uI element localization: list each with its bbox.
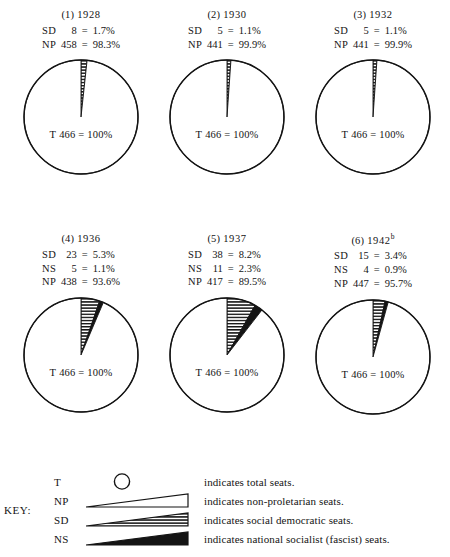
value-row-NS: NS 4 = 0.9% bbox=[334, 263, 412, 277]
panel-index: (3) bbox=[353, 9, 366, 20]
row-equals: = bbox=[226, 38, 236, 52]
panel-year: 1936 bbox=[77, 233, 100, 244]
row-percent: 99.9% bbox=[236, 38, 266, 52]
row-percent: 1.1% bbox=[90, 262, 120, 276]
key-entry-NP: NP indicates non-proletarian seats. bbox=[54, 491, 390, 510]
pie-total-label: T 466 = 100% bbox=[167, 367, 287, 378]
key-swatch-black-icon bbox=[84, 529, 190, 548]
pie-chart-1937: T 466 = 100% bbox=[167, 295, 287, 415]
pie-panel-1937: (5) 1937 SD 38 = 8.2% NS 11 = 2.3% NP 41… bbox=[152, 232, 302, 415]
panel-title: (1) 1928 bbox=[6, 8, 156, 22]
row-percent: 99.9% bbox=[382, 38, 412, 52]
pie-panel-1942: (6) 1942b SD 15 = 3.4% NS 4 = 0.9% NP 44… bbox=[298, 232, 448, 417]
row-abbr: SD bbox=[188, 248, 207, 262]
key-entry-description: indicates national socialist (fascist) s… bbox=[190, 533, 390, 545]
row-percent: 8.2% bbox=[236, 248, 266, 262]
key-entry-abbr: SD bbox=[54, 514, 84, 526]
panel-title: (2) 1930 bbox=[152, 8, 302, 22]
row-seats: 5 bbox=[207, 24, 226, 38]
row-abbr: SD bbox=[334, 24, 353, 38]
value-row-NP: NP 447 = 95.7% bbox=[334, 277, 412, 291]
panel-year: 1937 bbox=[223, 233, 246, 244]
panel-value-table: SD 15 = 3.4% NS 4 = 0.9% NP 447 = 95.7% bbox=[334, 249, 412, 291]
row-percent: 89.5% bbox=[236, 275, 266, 289]
key-entry-abbr: T bbox=[54, 476, 84, 488]
row-seats: 38 bbox=[207, 248, 226, 262]
row-equals: = bbox=[226, 24, 236, 38]
row-seats: 447 bbox=[353, 277, 372, 291]
pie-chart-1928: T 466 = 100% bbox=[21, 57, 141, 177]
pie-chart-1932: T 466 = 100% bbox=[313, 57, 433, 177]
chart-key: KEY: T indicates total seats. NP indicat… bbox=[0, 470, 450, 557]
row-abbr: NS bbox=[334, 263, 353, 277]
pie-chart-1936: T 466 = 100% bbox=[21, 295, 141, 415]
pie-panel-1930: (2) 1930 SD 5 = 1.1% NP 441 = 99.9% T 46… bbox=[152, 8, 302, 177]
row-abbr: SD bbox=[42, 248, 61, 262]
row-equals: = bbox=[80, 248, 90, 262]
row-seats: 438 bbox=[61, 275, 80, 289]
value-row-SD: SD 15 = 3.4% bbox=[334, 249, 412, 263]
row-seats: 441 bbox=[207, 38, 226, 52]
row-abbr: SD bbox=[42, 24, 61, 38]
pie-total-label: T 466 = 100% bbox=[167, 129, 287, 140]
row-equals: = bbox=[80, 262, 90, 276]
pie-panel-1932: (3) 1932 SD 5 = 1.1% NP 441 = 99.9% T 46… bbox=[298, 8, 448, 177]
row-seats: 5 bbox=[353, 24, 372, 38]
panel-value-table: SD 8 = 1.7% NP 458 = 98.3% bbox=[42, 24, 120, 52]
row-abbr: NP bbox=[42, 38, 61, 52]
row-percent: 95.7% bbox=[382, 277, 412, 291]
panel-footnote-marker: b bbox=[391, 232, 395, 241]
row-abbr: SD bbox=[188, 24, 207, 38]
key-entry-T: T indicates total seats. bbox=[54, 472, 390, 491]
row-equals: = bbox=[372, 24, 382, 38]
panel-year: 1932 bbox=[369, 9, 392, 20]
row-equals: = bbox=[372, 277, 382, 291]
row-seats: 15 bbox=[353, 249, 372, 263]
value-row-NP: NP 458 = 98.3% bbox=[42, 38, 120, 52]
key-entry-SD: SD indicates social democratic seats. bbox=[54, 510, 390, 529]
row-equals: = bbox=[226, 275, 236, 289]
row-equals: = bbox=[80, 275, 90, 289]
row-seats: 5 bbox=[61, 262, 80, 276]
panel-title: (3) 1932 bbox=[298, 8, 448, 22]
seat-distribution-figure: (1) 1928 SD 8 = 1.7% NP 458 = 98.3% T 46… bbox=[0, 0, 450, 557]
panel-year: 1942 bbox=[367, 235, 390, 246]
row-abbr: NS bbox=[42, 262, 61, 276]
row-percent: 93.6% bbox=[90, 275, 120, 289]
panel-value-table: SD 5 = 1.1% NP 441 = 99.9% bbox=[188, 24, 266, 52]
pie-panel-1928: (1) 1928 SD 8 = 1.7% NP 458 = 98.3% T 46… bbox=[6, 8, 156, 177]
key-swatch-circle-icon bbox=[84, 472, 190, 491]
panel-year: 1930 bbox=[223, 9, 246, 20]
row-abbr: NP bbox=[188, 275, 207, 289]
value-row-SD: SD 38 = 8.2% bbox=[188, 248, 266, 262]
row-percent: 3.4% bbox=[382, 249, 412, 263]
key-entry-description: indicates non-proletarian seats. bbox=[190, 495, 344, 507]
row-abbr: NP bbox=[334, 277, 353, 291]
row-percent: 1.1% bbox=[236, 24, 266, 38]
value-row-SD: SD 23 = 5.3% bbox=[42, 248, 120, 262]
value-row-NP: NP 441 = 99.9% bbox=[188, 38, 266, 52]
panel-value-table: SD 38 = 8.2% NS 11 = 2.3% NP 417 = 89.5% bbox=[188, 248, 266, 290]
pie-total-label: T 466 = 100% bbox=[21, 129, 141, 140]
panel-index: (4) bbox=[61, 233, 74, 244]
row-equals: = bbox=[372, 263, 382, 277]
row-equals: = bbox=[80, 38, 90, 52]
value-row-SD: SD 8 = 1.7% bbox=[42, 24, 120, 38]
panel-title: (5) 1937 bbox=[152, 232, 302, 246]
value-row-SD: SD 5 = 1.1% bbox=[334, 24, 412, 38]
row-equals: = bbox=[80, 24, 90, 38]
row-abbr: NP bbox=[188, 38, 207, 52]
panel-index: (1) bbox=[61, 9, 74, 20]
row-equals: = bbox=[226, 248, 236, 262]
pie-total-label: T 466 = 100% bbox=[21, 367, 141, 378]
key-entry-list: T indicates total seats. NP indicates no… bbox=[54, 472, 390, 548]
key-entry-NS: NS indicates national socialist (fascist… bbox=[54, 529, 390, 548]
row-equals: = bbox=[372, 249, 382, 263]
key-entry-description: indicates total seats. bbox=[190, 476, 294, 488]
pie-chart-1942: T 466 = 100% bbox=[313, 297, 433, 417]
row-seats: 417 bbox=[207, 275, 226, 289]
panel-index: (2) bbox=[207, 9, 220, 20]
panel-title: (6) 1942b bbox=[298, 232, 448, 247]
value-row-NP: NP 438 = 93.6% bbox=[42, 275, 120, 289]
row-percent: 0.9% bbox=[382, 263, 412, 277]
